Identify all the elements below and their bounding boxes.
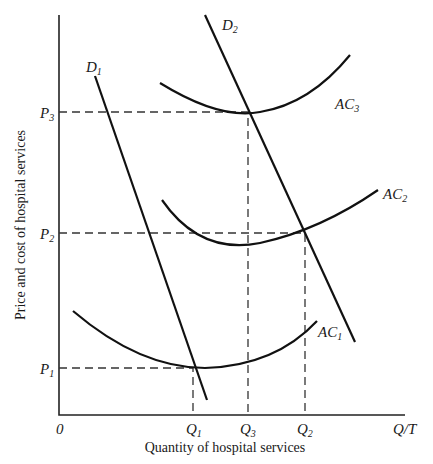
origin-label: 0 bbox=[56, 421, 64, 437]
demand-curve-d2 bbox=[205, 15, 355, 342]
p1-label: P1 bbox=[39, 361, 54, 379]
p3-label: P3 bbox=[39, 105, 54, 123]
y-axis-title: Price and cost of hospital services bbox=[13, 130, 28, 320]
ac3-curve bbox=[160, 55, 350, 113]
ac1-curve bbox=[73, 311, 317, 368]
q3-label: Q3 bbox=[240, 421, 256, 439]
ac2-curve bbox=[162, 190, 378, 245]
ac3-label: AC3 bbox=[334, 96, 359, 114]
p2-label: P2 bbox=[39, 226, 54, 244]
p3-q3-guide bbox=[59, 112, 248, 415]
p2-q2-guide bbox=[59, 233, 305, 415]
x-axis-title: Quantity of hospital services bbox=[145, 440, 306, 455]
ac1-label: AC1 bbox=[317, 324, 342, 342]
d2-label: D2 bbox=[221, 17, 238, 35]
demand-curve-d1 bbox=[95, 76, 207, 400]
q1-label: Q1 bbox=[186, 421, 202, 439]
d1-label: D1 bbox=[85, 59, 102, 77]
p1-q1-guide bbox=[59, 368, 193, 415]
ac2-label: AC2 bbox=[382, 186, 407, 204]
q2-label: Q2 bbox=[297, 421, 313, 439]
qt-label: Q/T bbox=[393, 421, 418, 437]
hospital-cost-diagram: P3 P2 P1 0 Q1 Q3 Q2 Q/T D1 D2 AC3 AC2 AC… bbox=[0, 0, 433, 464]
